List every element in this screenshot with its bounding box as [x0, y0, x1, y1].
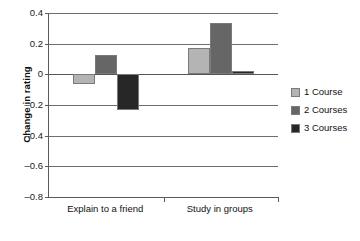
- y-axis-tick: [45, 74, 49, 75]
- gridline: [49, 105, 278, 106]
- x-axis-category-label: Study in groups: [187, 203, 253, 214]
- x-axis-tick: [278, 197, 279, 202]
- gridline: [49, 136, 278, 137]
- y-axis-tick: [45, 136, 49, 137]
- chart-legend: 1 Course2 Courses3 Courses: [291, 83, 347, 137]
- bar: [232, 71, 254, 75]
- y-axis-tick-label: –0.2: [25, 100, 44, 110]
- y-axis-tick: [45, 197, 49, 198]
- y-axis-tick-label: –0.8: [25, 192, 44, 202]
- legend-label: 2 Courses: [304, 105, 347, 115]
- y-axis-tick: [45, 105, 49, 106]
- bar: [73, 74, 95, 83]
- y-axis-tick-label: –0.6: [25, 162, 44, 172]
- gridline: [49, 166, 278, 167]
- legend-swatch-icon: [291, 106, 300, 115]
- y-axis-tick-label: 0: [38, 70, 43, 80]
- y-axis-tick: [45, 166, 49, 167]
- y-axis-tick-label: –0.4: [25, 131, 44, 141]
- y-axis-tick: [45, 44, 49, 45]
- legend-label: 3 Courses: [304, 123, 347, 133]
- bar: [210, 23, 232, 74]
- bar: [117, 74, 139, 110]
- bar: [95, 55, 117, 74]
- y-axis-tick-label: 0.4: [30, 8, 43, 18]
- gridline: [49, 44, 278, 45]
- gridline: [49, 13, 278, 14]
- bar: [188, 48, 210, 74]
- x-axis-tick: [164, 197, 165, 202]
- legend-swatch-icon: [291, 124, 300, 133]
- x-axis-category-label: Explain to a friend: [67, 203, 143, 214]
- legend-entry: 1 Course: [291, 83, 347, 101]
- y-axis-tick-label: 0.2: [30, 39, 43, 49]
- legend-label: 1 Course: [304, 87, 343, 97]
- legend-swatch-icon: [291, 88, 300, 97]
- legend-entry: 3 Courses: [291, 119, 347, 137]
- y-axis-tick: [45, 13, 49, 14]
- legend-entry: 2 Courses: [291, 101, 347, 119]
- bar-chart: Change in rating 0.40.20–0.2–0.4–0.6–0.8…: [0, 0, 360, 241]
- plot-area: 0.40.20–0.2–0.4–0.6–0.8: [48, 13, 278, 198]
